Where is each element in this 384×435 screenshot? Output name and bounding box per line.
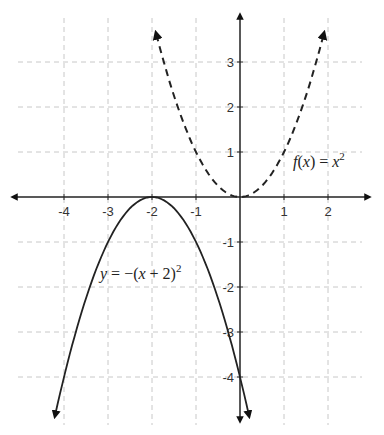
y-tick-label: -2 bbox=[222, 280, 234, 295]
y-tick-label: 1 bbox=[227, 145, 234, 160]
x-tick-label: -4 bbox=[58, 204, 70, 219]
x-tick-label: -2 bbox=[146, 204, 158, 219]
x-tick-label: 2 bbox=[324, 204, 331, 219]
grid-lines bbox=[18, 18, 362, 425]
y-tick-label: 2 bbox=[227, 100, 234, 115]
graph-plot: -4-3-2-112321-1-2-3-4 f(x) = x2 y = −(x … bbox=[0, 0, 384, 435]
label-g: y = −(x + 2)2 bbox=[98, 262, 181, 283]
x-tick-label: -1 bbox=[190, 204, 202, 219]
tick-labels: -4-3-2-112321-1-2-3-4 bbox=[58, 55, 331, 385]
label-f: f(x) = x2 bbox=[293, 150, 345, 171]
y-tick-label: 3 bbox=[227, 55, 234, 70]
x-tick-label: 1 bbox=[280, 204, 287, 219]
y-tick-label: -4 bbox=[222, 370, 234, 385]
y-tick-label: -1 bbox=[222, 235, 234, 250]
x-tick-label: -3 bbox=[102, 204, 114, 219]
